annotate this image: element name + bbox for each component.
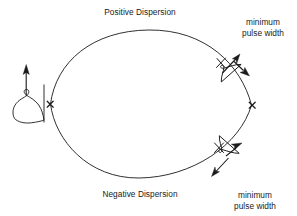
vertex-markers	[47, 101, 255, 108]
label-minimum-pulse-width-top: minimum pulse width	[230, 17, 296, 38]
dispersion-loop	[51, 30, 252, 178]
broad-pulse-profile-icon	[13, 89, 44, 120]
top-right-min-pulse-group	[213, 54, 249, 82]
diagram-canvas: Positive Dispersion Negative Dispersion …	[0, 0, 297, 216]
bottom-right-min-pulse-group	[211, 136, 242, 177]
lower-arc-negative-dispersion	[51, 104, 252, 178]
label-positive-dispersion: Positive Dispersion	[0, 7, 280, 18]
left-vertex-x-marker	[47, 101, 53, 107]
bottom-right-upper-arrow-head-icon	[231, 143, 242, 150]
right-vertex-x-marker	[249, 102, 255, 108]
bottom-right-lower-arrow-shaft	[216, 158, 229, 172]
left-broad-pulse-group	[13, 65, 44, 124]
label-minimum-pulse-width-bottom: minimum pulse width	[222, 190, 288, 211]
broad-pulse-tail-icon	[15, 119, 44, 124]
